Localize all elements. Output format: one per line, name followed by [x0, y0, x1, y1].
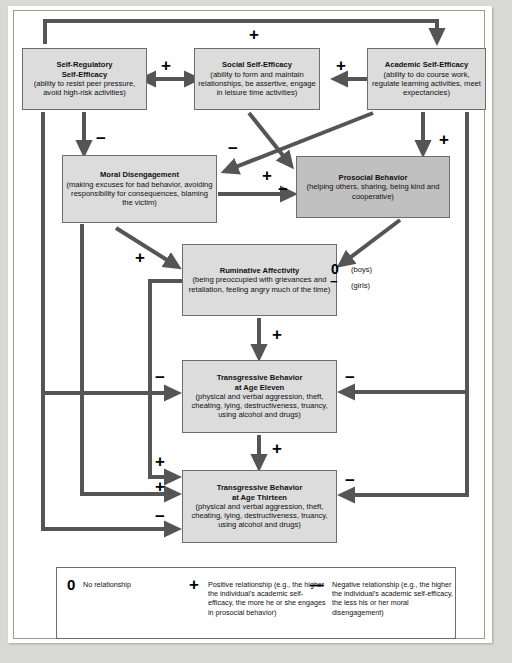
page-background: Self-Regulatory Self-Efficacy (ability t…: [0, 0, 512, 663]
sign-academic-transgressive13-minus: −: [345, 472, 355, 489]
sign-selfreg-transgressive11-minus: −: [155, 369, 165, 386]
legend-text-no-relationship: No relationship: [83, 580, 173, 589]
node-detail: (physical and verbal aggression, theft, …: [186, 502, 333, 530]
sign-moral-prosocial-minus: −: [278, 181, 288, 198]
node-title-2: at Age Eleven: [186, 383, 333, 392]
sign-ruminative-transgressive11-plus: +: [272, 326, 282, 343]
sign-ruminative-transgressive13-plus: +: [155, 453, 165, 470]
node-title: Transgressive Behavior: [186, 483, 333, 492]
sign-academic-moral-minus: −: [228, 140, 238, 157]
node-detail: (ability to resist peer pressure, avoid …: [26, 79, 143, 98]
node-detail: (making excuses for bad behavior, avoidi…: [66, 180, 213, 208]
sign-top-feedback-plus: +: [249, 26, 259, 43]
node-title: Academic Self-Efficacy: [371, 60, 482, 69]
sign-social-academic-plus: +: [336, 57, 346, 74]
node-prosocial-behavior[interactable]: Prosocial Behavior (helping others, shar…: [296, 156, 450, 218]
label-boys: (boys): [351, 265, 372, 274]
node-title-2: at Age Thirteen: [186, 493, 333, 502]
node-self-regulatory-self-efficacy[interactable]: Self-Regulatory Self-Efficacy (ability t…: [22, 48, 147, 110]
sign-selfreg-transgressive13-minus: −: [155, 508, 165, 525]
sign-prosocial-transgressive-minus: −: [330, 275, 338, 288]
node-moral-disengagement[interactable]: Moral Disengagement (making excuses for …: [62, 155, 217, 223]
node-detail: (physical and verbal aggression, theft, …: [186, 392, 333, 420]
node-title-2: Self-Efficacy: [26, 70, 143, 79]
legend-text-negative-relationship: Negative relationship (e.g., the higher …: [332, 580, 454, 617]
node-ruminative-affectivity[interactable]: Ruminative Affectivity (being preoccupie…: [182, 244, 337, 316]
sign-moral-ruminative-plus: +: [135, 249, 145, 266]
node-title: Social Self-Efficacy: [198, 60, 316, 69]
legend-plus-symbol: +: [189, 575, 199, 595]
legend-minus-symbol: —: [310, 577, 324, 593]
node-detail: (being preoccupied with grievances and r…: [186, 275, 333, 294]
node-title: Prosocial Behavior: [300, 173, 446, 182]
sign-selfreg-moral-minus: −: [96, 130, 106, 147]
node-detail: (ability to do course work, regulate lea…: [371, 70, 482, 98]
node-title: Moral Disengagement: [66, 170, 213, 179]
sign-selfreg-social-plus: +: [161, 57, 171, 74]
node-transgressive-behavior-age-thirteen[interactable]: Transgressive Behavior at Age Thirteen (…: [182, 470, 337, 543]
node-detail: (helping others, sharing, being kind and…: [300, 182, 446, 201]
sign-academic-transgressive11-minus: −: [345, 369, 355, 386]
label-girls: (girls): [351, 281, 370, 290]
node-social-self-efficacy[interactable]: Social Self-Efficacy (ability to form an…: [194, 48, 320, 110]
diagram-canvas: Self-Regulatory Self-Efficacy (ability t…: [0, 0, 512, 663]
legend: 0 No relationship + Positive relationshi…: [56, 567, 456, 639]
node-academic-self-efficacy[interactable]: Academic Self-Efficacy (ability to do co…: [367, 48, 486, 110]
node-title: Self-Regulatory: [26, 60, 143, 69]
sign-social-prosocial-plus: +: [262, 167, 272, 184]
node-title: Ruminative Affectivity: [186, 266, 333, 275]
node-detail: (ability to form and maintain relationsh…: [198, 70, 316, 98]
sign-moral-transgressive13-plus: +: [155, 478, 165, 495]
legend-zero-symbol: 0: [67, 576, 75, 593]
sign-academic-prosocial-plus: +: [439, 131, 449, 148]
node-transgressive-behavior-age-eleven[interactable]: Transgressive Behavior at Age Eleven (ph…: [182, 360, 337, 433]
sign-transgressive11-transgressive13-plus: +: [272, 440, 282, 457]
node-title: Transgressive Behavior: [186, 373, 333, 382]
